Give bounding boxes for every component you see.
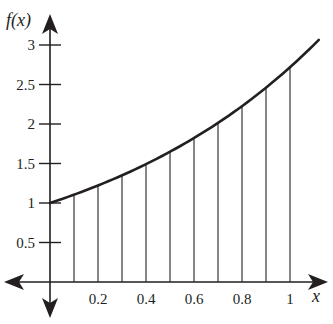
x-tick-label: 0.2 bbox=[89, 291, 108, 307]
y-ticks: 0.511.522.53 bbox=[16, 37, 61, 251]
y-tick-label: 2 bbox=[28, 116, 36, 132]
x-tick-label: 0.8 bbox=[233, 291, 252, 307]
y-tick-label: 2.5 bbox=[16, 77, 35, 93]
curve-f-x bbox=[50, 40, 319, 203]
y-tick-label: 1 bbox=[28, 195, 36, 211]
partition-lines bbox=[74, 67, 290, 282]
y-tick-label: 1.5 bbox=[16, 156, 35, 172]
y-axis-label: f(x) bbox=[6, 10, 31, 31]
x-axis-label: x bbox=[311, 286, 320, 306]
function-plot: 0.511.522.53 0.20.40.60.81 f(x) x bbox=[0, 0, 333, 324]
y-tick-label: 0.5 bbox=[16, 235, 35, 251]
axes bbox=[4, 14, 328, 318]
x-tick-label: 1 bbox=[286, 291, 294, 307]
y-tick-label: 3 bbox=[28, 37, 36, 53]
x-tick-label: 0.6 bbox=[185, 291, 204, 307]
x-ticks: 0.20.40.60.81 bbox=[89, 291, 294, 307]
x-tick-label: 0.4 bbox=[137, 291, 156, 307]
